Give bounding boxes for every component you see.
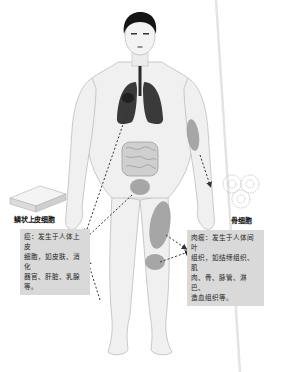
- human-body-figure: [0, 0, 281, 372]
- carcinoma-infobox: 癌：发生于人体上皮 细胞，如皮肤、消化 器官、肝脏、乳腺等。: [20, 229, 90, 295]
- carcinoma-text-line: 癌：发生于人体上皮: [24, 232, 86, 252]
- knee-region: [145, 254, 165, 270]
- squamous-epithelial-cells-label: 鳞状上皮细胞: [14, 214, 55, 224]
- carcinoma-text-line: 器官、肝脏、乳腺等。: [24, 272, 86, 292]
- pelvis-region: [130, 179, 150, 195]
- sarcoma-infobox: 肉瘤：发生于人体间叶 组织，如结缔组织、肌 肉、骨、脉管、淋巴、 造血组织等。: [187, 230, 264, 306]
- bone-cells-illustration: [223, 175, 259, 208]
- squamous-epithelium-illustration: [10, 186, 66, 212]
- bone-cells-label: 骨细胞: [231, 215, 251, 225]
- sarcoma-text-line: 组织，如结缔组织、肌: [191, 253, 260, 273]
- sarcoma-text-line: 肉、骨、脉管、淋巴、: [191, 273, 260, 293]
- sarcoma-text-line: 肉瘤：发生于人体间叶: [191, 233, 260, 253]
- intestines: [122, 142, 158, 176]
- carcinoma-text-line: 细胞，如皮肤、消化: [24, 252, 86, 272]
- diagram-canvas: 鳞状上皮细胞 骨细胞 癌：发生于人体上皮 细胞，如皮肤、消化 器官、肝脏、乳腺等…: [0, 0, 281, 372]
- sarcoma-text-line: 造血组织等。: [191, 293, 260, 303]
